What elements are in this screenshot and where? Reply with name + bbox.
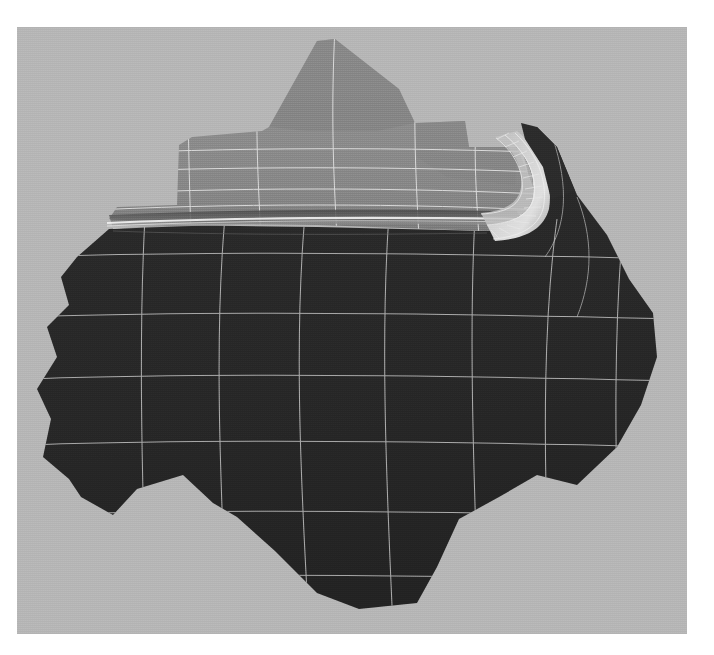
screenshot-root — [0, 0, 714, 655]
mesh-render-surface[interactable] — [17, 27, 687, 634]
mesh-viewport[interactable] — [17, 27, 687, 634]
